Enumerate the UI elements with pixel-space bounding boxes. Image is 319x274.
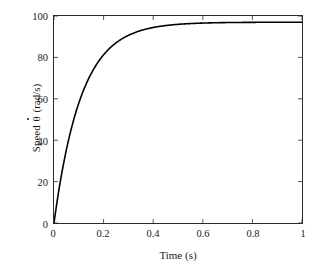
plot-area — [53, 15, 303, 224]
figure-chart-speed-vs-time: 100 80 60 40 20 0 0 0.2 0.4 0.6 0.8 1 Ti… — [0, 0, 319, 274]
theta-dot-symbol: θ — [30, 115, 42, 122]
theta-glyph: θ — [30, 116, 42, 121]
x-tick-label-1: 1 — [300, 229, 305, 240]
y-axis-title-text: Speed — [30, 125, 42, 152]
y-axis-title-units: (rad/s) — [30, 84, 42, 113]
data-curve-speed — [54, 22, 302, 223]
y-axis-title: Speed θ (rad/s) — [30, 23, 42, 213]
x-tick-label-0.6: 0.6 — [196, 229, 209, 240]
x-axis-title: Time (s) — [53, 249, 303, 261]
axis-tick-marks — [54, 16, 302, 223]
x-tick-label-0.2: 0.2 — [96, 229, 109, 240]
derivative-dot-icon — [27, 118, 29, 120]
x-tick-label-0.4: 0.4 — [146, 229, 159, 240]
x-tick-label-0.8: 0.8 — [246, 229, 259, 240]
curve-svg — [54, 16, 302, 223]
y-tick-label-100: 100 — [32, 12, 48, 23]
x-tick-label-0: 0 — [50, 229, 55, 240]
x-axis-tick-labels: 0 0.2 0.4 0.6 0.8 1 — [0, 229, 319, 243]
